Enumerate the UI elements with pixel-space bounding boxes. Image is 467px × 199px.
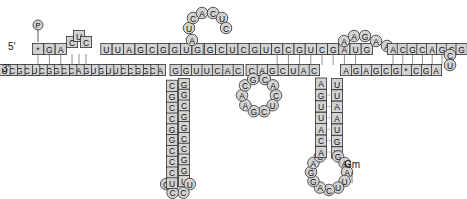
stem3-left-nucleotide: A [315,146,326,157]
bottom-middle2-nucleotide: U [201,64,212,75]
svg-text:C: C [83,38,89,48]
gm-modification-label: Gm [344,159,360,170]
stem1-right-nucleotide: G [178,122,189,133]
anticodon-arch-nucleotide: A [196,7,208,19]
svg-text:G: G [251,45,258,55]
stem1-left-nucleotide: C [166,102,177,113]
svg-text:G: G [171,45,178,55]
stem3-left-nucleotide: C [315,135,326,146]
anticodon-arch-nucleotide: C [220,22,232,34]
bottom-right-nucleotide: A [340,64,351,75]
svg-text:C: C [383,66,389,76]
svg-text:G: G [393,66,400,76]
right-loop-nucleotide: U [444,59,456,71]
top-middle-nucleotide: G [294,43,305,54]
svg-text:A: A [225,66,231,76]
stem3-left-nucleotide: A [315,124,326,135]
bottom-middle-nucleotide: G [267,64,278,75]
stem1-left-nucleotide: C [166,156,177,167]
top-middle-nucleotide: U [350,43,361,54]
top-middle-nucleotide: C [216,43,227,54]
stem1-right-nucleotide: G [178,78,189,89]
anticodon-arch-nucleotide: A [186,34,198,46]
top-left-nucleotide: * [32,43,43,54]
svg-text:C: C [169,103,175,113]
svg-text:C: C [419,45,425,55]
svg-text:C: C [169,168,175,178]
stem1-right-nucleotide: C [178,100,189,111]
svg-text:G: G [269,66,276,76]
top-middle-nucleotide: U [260,43,271,54]
svg-text:A: A [58,45,64,55]
svg-text:A: A [351,32,357,42]
svg-text:G: G [353,66,360,76]
svg-text:U: U [334,125,340,135]
svg-text:U: U [263,45,269,55]
svg-text:C: C [180,188,186,198]
stem1-left-nucleotide: C [166,113,177,124]
stem3-right-nucleotide: A [331,113,342,124]
svg-text:C: C [181,134,187,144]
stem3-right-nucleotide: G [331,135,342,146]
svg-text:U: U [103,45,109,55]
svg-text:U: U [229,45,235,55]
stem3-left-nucleotide: G [315,89,326,100]
top-left-nucleotide: A [124,43,135,54]
svg-text:U: U [219,14,225,24]
svg-text:C: C [326,186,332,196]
svg-text:U: U [204,66,210,76]
svg-text:G: G [172,66,179,76]
svg-text:C: C [242,81,248,91]
svg-text:G: G [423,66,430,76]
svg-text:C: C [214,66,220,76]
svg-text:A: A [373,37,379,47]
bottom-right-nucleotide: A [360,64,371,75]
bottom-middle2-nucleotide: C [232,64,243,75]
svg-text:G: G [181,112,188,122]
top-left-nucleotide: G [169,43,180,54]
bottom-right-nucleotide: C [410,64,421,75]
svg-text:A: A [318,125,324,135]
svg-text:C: C [218,45,224,55]
svg-text:C: C [223,24,229,34]
svg-text:C: C [413,66,419,76]
svg-text:U: U [308,45,314,55]
top-middle-nucleotide: C [316,43,327,54]
bottom-middle2-nucleotide: G [180,64,191,75]
top-middle-nucleotide: C [238,43,249,54]
top-left-nucleotide: C [146,43,157,54]
svg-text:U: U [193,66,199,76]
stem3-left-nucleotide: U [315,101,326,112]
svg-text:C: C [311,66,317,76]
svg-text:G: G [160,45,167,55]
svg-text:C: C [318,136,324,146]
top-middle-nucleotide: G [272,43,283,54]
stem1-left-nucleotide: G [166,134,177,145]
top-bulge-nucleotide: A [348,30,360,42]
bottom-middle-nucleotide: U [288,64,299,75]
svg-text:C: C [319,45,325,55]
svg-text:C: C [169,81,175,91]
svg-text:G: G [296,45,303,55]
svg-text:U: U [169,179,175,189]
svg-text:C: C [181,144,187,154]
svg-text:G: G [409,45,416,55]
top-middle-nucleotide: U [227,43,238,54]
svg-text:U: U [183,45,189,55]
svg-text:G: G [181,166,188,176]
bottom-right-nucleotide: G [420,64,431,75]
svg-text:A: A [334,114,340,124]
svg-text:U: U [334,80,340,90]
svg-text:G: G [183,66,190,76]
rna-secondary-structure-diagram: *GACUCUUAGCGGUGAUCACUCGCUCGUGCGUCGAUGAAG… [0,0,467,199]
svg-text:A: A [433,66,439,76]
top-middle-nucleotide: G [361,43,372,54]
svg-text:A: A [318,148,324,158]
bottom-middle-nucleotide: A [298,64,309,75]
bottom-middle2-nucleotide: A [222,64,233,75]
svg-text:G: G [334,137,341,147]
svg-text:G: G [207,45,214,55]
svg-text:C: C [149,45,155,55]
stem1-left-nucleotide: C [166,167,177,178]
stem1-right-nucleotide: G [178,89,189,100]
